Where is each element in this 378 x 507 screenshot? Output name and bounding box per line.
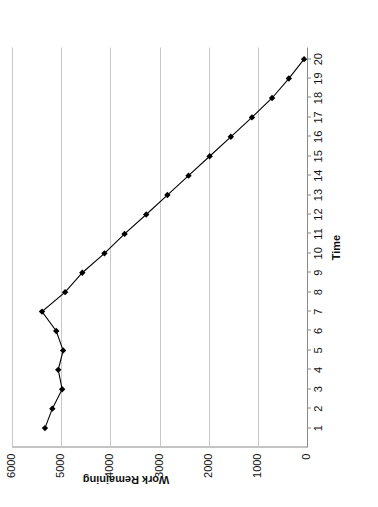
y-axis-title: Work Remaining xyxy=(56,473,196,485)
data-point-marker xyxy=(39,308,45,314)
x-tick xyxy=(307,58,311,59)
x-tick xyxy=(307,174,311,175)
x-tick xyxy=(307,407,311,408)
x-tick xyxy=(307,135,311,136)
y-tick-label: 6000 xyxy=(6,447,17,499)
data-point-marker xyxy=(49,405,55,411)
x-tick xyxy=(307,194,311,195)
x-tick xyxy=(307,330,311,331)
line-path xyxy=(42,59,304,428)
x-tick xyxy=(307,310,311,311)
gridline xyxy=(307,47,308,447)
x-axis-title: Time xyxy=(330,47,342,447)
x-tick xyxy=(307,388,311,389)
plot-area: 0100020003000400050006000 xyxy=(12,47,307,447)
x-tick xyxy=(307,213,311,214)
data-point-marker xyxy=(60,347,66,353)
x-tick-label: 20 xyxy=(312,46,325,72)
x-tick xyxy=(307,252,311,253)
data-point-marker xyxy=(55,366,61,372)
x-tick xyxy=(307,271,311,272)
rotated-chart-figure: 0100020003000400050006000 12345678910111… xyxy=(0,0,378,507)
series-line-work-remaining xyxy=(12,47,307,447)
x-tick xyxy=(307,349,311,350)
data-point-marker xyxy=(42,424,48,430)
y-tick-label: 1000 xyxy=(252,447,263,499)
y-tick-label: 2000 xyxy=(203,447,214,499)
x-tick xyxy=(307,155,311,156)
chart-page: 0100020003000400050006000 12345678910111… xyxy=(0,0,378,507)
x-tick xyxy=(307,77,311,78)
y-tick-label: 0 xyxy=(301,447,312,499)
x-tick xyxy=(307,232,311,233)
x-tick xyxy=(307,116,311,117)
data-point-marker xyxy=(59,386,65,392)
x-tick xyxy=(307,368,311,369)
x-tick xyxy=(307,291,311,292)
x-tick xyxy=(307,97,311,98)
data-point-markers xyxy=(39,55,307,430)
x-tick xyxy=(307,427,311,428)
